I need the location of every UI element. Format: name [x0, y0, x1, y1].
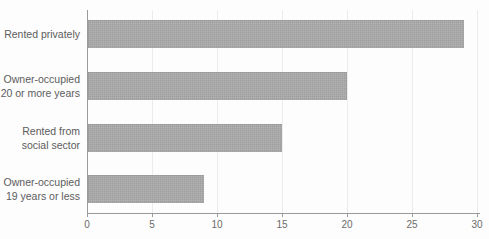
category-label-0: Rented privately [4, 27, 80, 41]
x-tick-mark-0 [87, 214, 88, 217]
x-tick-mark-5 [152, 214, 153, 217]
x-tick-label-15: 15 [276, 219, 287, 230]
category-label-line: Rented from [22, 124, 80, 138]
x-tick-mark-10 [217, 214, 218, 217]
category-label-line: Owner-occupied [4, 175, 80, 189]
x-tick-label-10: 10 [211, 219, 222, 230]
x-tick-label-5: 5 [149, 219, 155, 230]
x-tick-label-20: 20 [341, 219, 352, 230]
category-label-line: Rented privately [4, 27, 80, 41]
bar-0 [88, 20, 464, 48]
x-tick-label-25: 25 [406, 219, 417, 230]
category-label-3: Owner-occupied19 years or less [4, 175, 80, 203]
housing-tenure-bar-chart: 051015202530Rented privatelyOwner-occupi… [0, 0, 489, 239]
category-label-line: social sector [22, 138, 80, 152]
x-tick-mark-20 [347, 214, 348, 217]
category-label-2: Rented fromsocial sector [22, 124, 80, 152]
bar-3 [88, 175, 204, 203]
x-tick-mark-30 [477, 214, 478, 217]
category-label-line: 19 years or less [4, 189, 80, 203]
category-label-line: Owner-occupied [1, 72, 80, 86]
bar-2 [88, 124, 282, 152]
x-tick-label-0: 0 [84, 219, 90, 230]
bar-1 [88, 72, 347, 100]
x-tick-mark-25 [412, 214, 413, 217]
category-label-line: 20 or more years [1, 86, 80, 100]
x-tick-label-30: 30 [471, 219, 482, 230]
x-axis-line [87, 213, 480, 214]
gridline-30 [477, 10, 478, 213]
category-label-1: Owner-occupied20 or more years [1, 72, 80, 100]
x-tick-mark-15 [282, 214, 283, 217]
